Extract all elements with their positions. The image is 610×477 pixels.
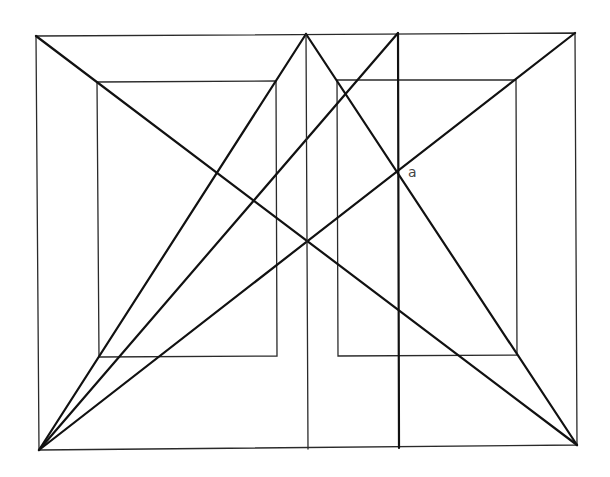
apex-to-br-line — [306, 34, 577, 445]
thick-vertical-line — [398, 33, 399, 448]
lines-group — [36, 33, 577, 450]
apex-to-bl-line — [39, 34, 306, 450]
bl-to-thick-top-line — [39, 33, 398, 450]
point-label-a: a — [408, 165, 417, 179]
geometric-diagram — [0, 0, 610, 477]
